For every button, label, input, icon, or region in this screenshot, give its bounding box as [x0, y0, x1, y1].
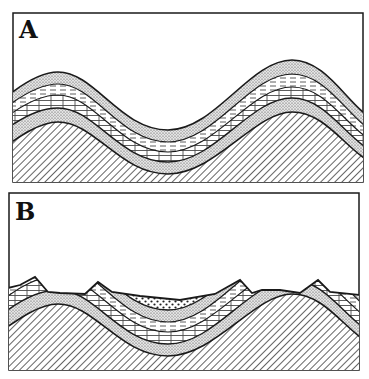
panel-b: B: [0, 193, 369, 379]
panel-b-label: B: [15, 197, 35, 226]
figure-svg: A B: [0, 0, 369, 379]
panel-a: A: [0, 13, 369, 200]
panel-a-label: A: [18, 15, 38, 44]
geologic-fold-figure: A B: [0, 0, 369, 379]
